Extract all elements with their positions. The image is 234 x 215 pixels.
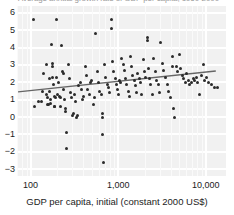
- plot-area: [17, 6, 226, 176]
- data-point: [210, 83, 213, 86]
- y-tick-label: 2: [1, 78, 15, 87]
- chart-title-clipped: Average annual growth rate of GDP per ca…: [0, 0, 234, 5]
- data-point: [50, 43, 53, 46]
- data-point: [200, 74, 203, 77]
- data-point: [52, 83, 55, 86]
- data-point: [79, 81, 82, 84]
- data-point: [205, 76, 208, 79]
- data-point: [123, 69, 126, 72]
- data-point: [161, 62, 164, 65]
- y-tick-label: −2: [1, 147, 15, 156]
- data-point: [74, 100, 77, 103]
- data-point: [100, 93, 103, 96]
- y-tick-label: 1: [1, 95, 15, 104]
- data-point: [40, 100, 43, 103]
- x-axis-label: GDP per capita, initial (constant 2000 U…: [0, 196, 234, 207]
- x-tick-label: 100: [23, 180, 38, 190]
- data-point: [49, 102, 52, 105]
- data-point: [164, 76, 167, 79]
- chart-title-text: Average annual growth rate of GDP per ca…: [18, 0, 219, 3]
- y-tick-label: 3: [1, 60, 15, 69]
- data-point: [49, 98, 52, 101]
- y-tick-label: 4: [1, 43, 15, 52]
- data-point: [65, 131, 68, 134]
- y-tick-label: 0: [1, 113, 15, 122]
- data-point: [151, 93, 154, 96]
- data-point: [144, 76, 147, 79]
- y-tick-label: −3: [1, 165, 15, 174]
- x-tick-label: 1,000: [107, 180, 130, 190]
- y-axis: 6543210−1−2−3: [0, 0, 15, 182]
- data-point: [117, 93, 120, 96]
- data-point: [62, 72, 65, 75]
- data-point: [175, 65, 178, 68]
- data-point: [142, 58, 145, 61]
- data-point: [101, 116, 104, 119]
- y-tick-label: 5: [1, 26, 15, 35]
- data-point: [88, 93, 91, 96]
- data-point: [147, 67, 150, 70]
- data-point: [128, 95, 131, 98]
- data-point: [41, 90, 44, 93]
- data-point: [85, 74, 88, 77]
- data-point: [80, 88, 83, 91]
- data-point: [72, 112, 75, 115]
- data-point: [157, 83, 160, 86]
- data-point: [120, 57, 123, 60]
- data-point: [119, 81, 122, 84]
- y-tick-label: −1: [1, 130, 15, 139]
- data-point: [111, 60, 114, 63]
- data-point: [152, 57, 155, 60]
- data-point: [129, 55, 132, 58]
- data-point: [76, 114, 79, 117]
- data-point: [69, 91, 72, 94]
- data-point: [127, 90, 130, 93]
- y-tick-label: 6: [1, 8, 15, 17]
- data-point: [116, 88, 119, 91]
- data-point: [178, 53, 181, 56]
- data-point: [166, 83, 169, 86]
- data-point: [102, 161, 105, 164]
- data-point: [195, 76, 198, 79]
- x-tick-label: 10,000: [192, 180, 220, 190]
- scatter-chart-figure: Average annual growth rate of GDP per ca…: [0, 0, 234, 215]
- data-point: [97, 81, 100, 84]
- data-point: [84, 65, 87, 68]
- data-point: [216, 86, 219, 89]
- data-point: [73, 93, 76, 96]
- data-point: [107, 86, 110, 89]
- data-point: [55, 76, 58, 79]
- data-point: [171, 55, 174, 58]
- data-point: [167, 90, 170, 93]
- data-point: [139, 81, 142, 84]
- data-point: [133, 79, 136, 82]
- data-point: [115, 83, 118, 86]
- x-axis: 1001,00010,000: [0, 180, 234, 194]
